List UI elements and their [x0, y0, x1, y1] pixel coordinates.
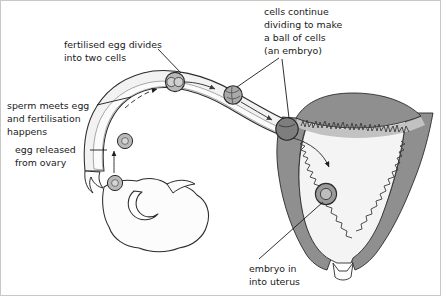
sperm-meets-egg-line-2: and fertilisation — [7, 113, 81, 124]
fertilised-egg-line-2: into two cells — [64, 52, 126, 63]
stage-blastocyst — [276, 118, 298, 140]
stage-fertilised-egg — [117, 133, 132, 148]
cervix — [333, 263, 353, 280]
diagram-canvas: fertilised egg divides into two cells sp… — [1, 1, 441, 296]
flow-arrows-group — [114, 82, 272, 173]
sperm-meets-egg-line-1: sperm meets egg — [7, 100, 89, 111]
egg-released-label: egg released from ovary — [15, 144, 79, 168]
egg-released-line-1: egg released — [15, 144, 76, 155]
leader-fertilised-egg — [158, 49, 181, 73]
embryo-uterus-line-1: embryo in — [249, 263, 297, 274]
cells-continue-line-4: (an embryo) — [264, 45, 322, 56]
sperm-meets-egg-line-3: happens — [7, 126, 47, 137]
fimbriae — [85, 171, 103, 193]
fertilised-egg-line-1: fertilised egg divides — [64, 39, 162, 50]
uterus-group — [277, 93, 433, 280]
fallopian-tube-group — [84, 71, 293, 193]
leader-cells-a — [237, 58, 279, 87]
fertilised-egg-divides-label: fertilised egg divides into two cells — [64, 39, 165, 63]
stage-morula — [224, 86, 242, 104]
cells-continue-line-2: dividing to make — [264, 19, 343, 30]
stage-implanted-embryo — [315, 183, 336, 204]
embryo-in-uterus-label: embryo in into uterus — [249, 263, 300, 287]
sperm-meets-egg-label: sperm meets egg and fertilisation happen… — [7, 100, 92, 137]
stage-released-egg — [107, 175, 122, 190]
stage-two-cell — [165, 72, 184, 91]
egg-released-line-2: from ovary — [15, 157, 67, 168]
leader-cells-b — [282, 59, 289, 118]
embryo-uterus-line-2: into uterus — [249, 276, 300, 287]
cells-continue-dividing-label: cells continue dividing to make a ball o… — [264, 6, 345, 56]
cells-continue-line-3: a ball of cells — [264, 32, 326, 43]
fertilisation-diagram-figure: fertilised egg divides into two cells sp… — [0, 0, 441, 296]
cells-continue-line-1: cells continue — [264, 6, 329, 17]
